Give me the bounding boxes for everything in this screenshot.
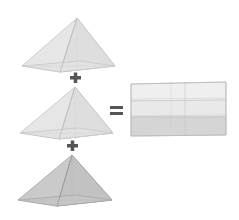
plus-sign-1 — [70, 73, 81, 84]
diagram-canvas — [0, 0, 239, 220]
pyramid-middle-light — [20, 87, 113, 139]
pyramid-top-light — [22, 18, 115, 72]
diagram-svg — [0, 0, 239, 220]
equals-sign — [110, 106, 123, 115]
layered-prism — [131, 82, 226, 136]
pyramid-bottom-dark — [18, 155, 112, 206]
plus-sign-2 — [67, 141, 78, 152]
